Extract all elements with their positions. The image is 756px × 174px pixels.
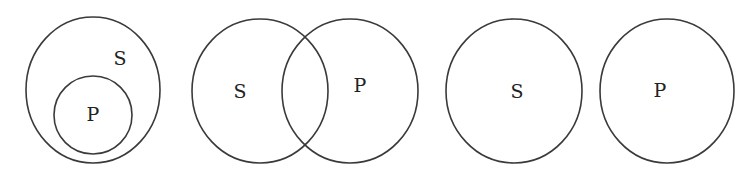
s-circle — [26, 17, 160, 163]
p-circle — [282, 19, 418, 163]
p-circle — [600, 19, 734, 163]
s-label: S — [233, 80, 246, 102]
venn-diagram-figure: S P S P S P — [0, 0, 756, 174]
s-label: S — [113, 47, 126, 69]
disjoint-diagram: S P — [446, 19, 734, 163]
subset-diagram: S P — [26, 17, 160, 163]
overlap-diagram: S P — [192, 19, 418, 163]
p-label: P — [654, 79, 667, 101]
p-label: P — [354, 74, 367, 96]
s-circle — [192, 19, 328, 163]
s-label: S — [510, 80, 523, 102]
p-label: P — [87, 103, 100, 125]
